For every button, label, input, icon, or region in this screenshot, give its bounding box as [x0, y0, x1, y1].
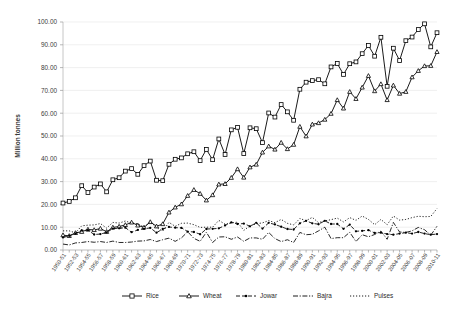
- data-point-marker: [224, 224, 226, 226]
- data-point-marker: [168, 226, 170, 228]
- legend-label: Pulses: [374, 292, 393, 299]
- data-point-marker: [92, 185, 96, 189]
- line-chart: 0.0010.0020.0030.0040.0050.0060.0070.008…: [0, 0, 463, 318]
- data-point-marker: [417, 231, 419, 233]
- data-point-marker: [211, 228, 213, 230]
- data-point-marker: [298, 124, 302, 128]
- data-point-marker: [229, 128, 233, 132]
- data-point-marker: [429, 45, 433, 49]
- data-point-marker: [93, 233, 95, 235]
- data-point-marker: [217, 137, 221, 141]
- data-point-marker: [398, 59, 402, 63]
- data-point-marker: [123, 223, 127, 227]
- data-point-marker: [180, 156, 184, 160]
- data-point-marker: [248, 126, 252, 130]
- data-point-marker: [379, 82, 383, 86]
- y-axis-tick-label: 0.00: [45, 246, 58, 253]
- data-point-marker: [367, 44, 371, 48]
- data-point-marker: [211, 158, 215, 162]
- legend-item-bajra: Bajra: [293, 292, 332, 300]
- data-point-marker: [137, 229, 139, 231]
- data-point-marker: [423, 232, 425, 234]
- data-point-marker: [174, 227, 176, 229]
- data-point-marker: [142, 164, 146, 168]
- data-point-marker: [92, 228, 96, 232]
- y-axis-tick-label: 40.00: [41, 155, 57, 162]
- data-point-marker: [198, 159, 202, 163]
- data-point-marker: [298, 87, 302, 91]
- data-point-marker: [436, 233, 438, 235]
- data-point-marker: [155, 178, 159, 182]
- data-point-marker: [348, 62, 352, 66]
- data-point-marker: [280, 226, 282, 228]
- data-point-marker: [316, 121, 320, 125]
- data-point-marker: [435, 31, 439, 35]
- y-axis-tick-label: 30.00: [41, 178, 57, 185]
- data-point-marker: [429, 64, 433, 68]
- data-point-marker: [99, 233, 101, 235]
- data-point-marker: [354, 60, 358, 64]
- data-point-marker: [236, 125, 240, 129]
- data-point-marker: [80, 184, 84, 188]
- y-axis-tick-label: 100.00: [37, 18, 57, 25]
- data-point-marker: [398, 232, 400, 234]
- data-point-marker: [248, 165, 252, 169]
- chart-legend: RiceWheatJowarBajraPulses: [122, 292, 393, 300]
- data-point-marker: [317, 78, 321, 82]
- data-point-marker: [173, 205, 177, 209]
- y-axis-tick-label: 60.00: [41, 110, 57, 117]
- data-point-marker: [385, 84, 389, 88]
- data-point-marker: [342, 228, 344, 230]
- data-point-marker: [410, 35, 414, 39]
- data-point-marker: [192, 150, 196, 154]
- data-point-marker: [367, 229, 369, 231]
- legend-item-jowar: Jowar: [236, 292, 278, 299]
- data-point-marker: [62, 236, 64, 238]
- data-point-marker: [386, 233, 388, 235]
- data-point-marker: [61, 233, 65, 237]
- data-point-marker: [268, 222, 270, 224]
- series-layer: [61, 22, 439, 245]
- legend-label: Rice: [146, 292, 159, 299]
- data-point-marker: [254, 127, 258, 131]
- data-point-marker: [173, 157, 177, 161]
- chart-figure: 0.0010.0020.0030.0040.0050.0060.0070.008…: [0, 0, 463, 318]
- data-point-marker: [105, 231, 107, 233]
- data-point-marker: [99, 182, 103, 186]
- series-wheat: [61, 50, 439, 238]
- data-point-marker: [335, 62, 339, 66]
- y-axis-ticks: 0.0010.0020.0030.0040.0050.0060.0070.008…: [37, 18, 63, 253]
- data-point-marker: [199, 233, 201, 235]
- data-point-marker: [180, 227, 182, 229]
- data-point-marker: [243, 222, 245, 224]
- data-point-marker: [148, 159, 152, 163]
- data-point-marker: [366, 74, 370, 78]
- data-point-marker: [211, 193, 215, 197]
- legend-label: Jowar: [260, 292, 278, 299]
- data-point-marker: [416, 28, 420, 32]
- data-point-marker: [67, 200, 71, 204]
- y-axis-title-text: Million tonnes: [14, 114, 21, 158]
- data-point-marker: [361, 230, 363, 232]
- data-point-marker: [118, 227, 120, 229]
- data-point-marker: [161, 222, 165, 226]
- data-point-marker: [193, 231, 195, 233]
- data-point-marker: [267, 144, 271, 148]
- data-point-marker: [245, 295, 248, 298]
- data-point-marker: [391, 83, 395, 87]
- data-point-marker: [360, 52, 364, 56]
- y-axis-tick-label: 20.00: [41, 201, 57, 208]
- data-point-marker: [310, 79, 314, 83]
- data-point-marker: [198, 191, 202, 195]
- data-point-marker: [292, 142, 296, 146]
- data-point-marker: [286, 228, 288, 230]
- data-point-marker: [336, 223, 338, 225]
- data-point-marker: [111, 178, 115, 182]
- data-point-marker: [87, 229, 89, 231]
- data-point-marker: [385, 98, 389, 102]
- data-point-marker: [162, 228, 164, 230]
- data-point-marker: [261, 227, 263, 229]
- data-point-marker: [136, 172, 140, 176]
- data-point-marker: [86, 191, 90, 195]
- data-point-marker: [330, 223, 332, 225]
